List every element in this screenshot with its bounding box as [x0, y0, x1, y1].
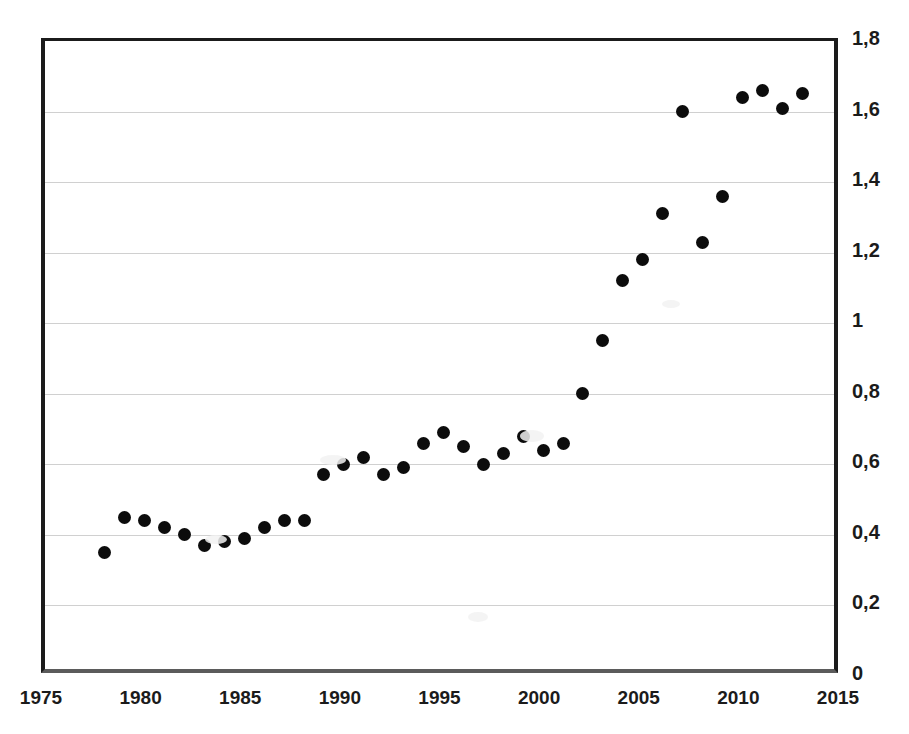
data-point [636, 253, 649, 266]
data-point [118, 511, 131, 524]
y-tick-label: 0,4 [852, 522, 880, 542]
data-point [158, 521, 171, 534]
x-tick-label: 1975 [20, 688, 62, 707]
data-point [377, 468, 390, 481]
data-point [457, 440, 470, 453]
y-tick-label: 0,2 [852, 592, 880, 612]
data-point [557, 437, 570, 450]
plot-area [41, 38, 838, 673]
x-tick-label: 1980 [119, 688, 161, 707]
x-tick-label: 1985 [219, 688, 261, 707]
data-point [298, 514, 311, 527]
data-point [736, 91, 749, 104]
x-tick-label: 1990 [319, 688, 361, 707]
scan-artifact [205, 535, 227, 544]
data-point [756, 84, 769, 97]
data-point [537, 444, 550, 457]
data-point [796, 87, 809, 100]
x-tick-label: 2000 [518, 688, 560, 707]
data-point [98, 546, 111, 559]
data-point [656, 207, 669, 220]
data-point [417, 437, 430, 450]
data-point [596, 334, 609, 347]
data-point [397, 461, 410, 474]
y-tick-label: 1,6 [852, 99, 880, 119]
scatter-chart: 00,20,40,60,811,21,41,61,8 1975198019851… [0, 0, 909, 734]
data-point [437, 426, 450, 439]
data-point [776, 102, 789, 115]
data-point [138, 514, 151, 527]
scan-artifact [468, 612, 488, 622]
data-point [616, 274, 629, 287]
y-tick-label: 0,8 [852, 381, 880, 401]
y-tick-label: 1,2 [852, 240, 880, 260]
data-point [576, 387, 589, 400]
y-tick-label: 1,8 [852, 28, 880, 48]
data-point [676, 105, 689, 118]
y-tick-label: 0,6 [852, 451, 880, 471]
scan-artifact [320, 455, 346, 465]
scan-artifact [662, 300, 680, 308]
y-tick-label: 1,4 [852, 169, 880, 189]
data-point [357, 451, 370, 464]
data-point [278, 514, 291, 527]
scan-artifact [520, 430, 544, 442]
x-tick-label: 1995 [418, 688, 460, 707]
data-point [477, 458, 490, 471]
data-point [497, 447, 510, 460]
data-points-layer [45, 41, 834, 669]
data-point [716, 190, 729, 203]
data-point [696, 236, 709, 249]
x-tick-label: 2015 [817, 688, 859, 707]
x-tick-label: 2010 [717, 688, 759, 707]
data-point [317, 468, 330, 481]
data-point [178, 528, 191, 541]
x-tick-label: 2005 [618, 688, 660, 707]
y-tick-label: 0 [852, 663, 863, 683]
data-point [258, 521, 271, 534]
data-point [238, 532, 251, 545]
y-tick-label: 1 [852, 310, 863, 330]
